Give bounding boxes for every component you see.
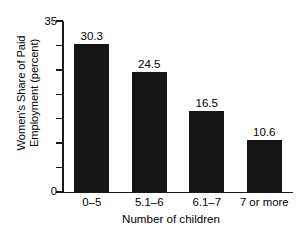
bar[interactable]: [247, 140, 282, 192]
x-axis-title: Number of children: [0, 212, 298, 225]
y-axis-tick-label-0: 0: [29, 185, 57, 197]
y-axis-tick-35: [56, 20, 63, 22]
y-axis-tick-5: [56, 167, 63, 169]
plot-area: 30.324.516.510.6: [63, 21, 293, 192]
y-axis-tick-label-35: 35: [29, 15, 57, 27]
bar-group: 30.3: [74, 21, 109, 192]
x-axis-tick-label: 5.1–6: [135, 196, 164, 208]
bar[interactable]: [189, 111, 224, 192]
y-axis-tick-0: [56, 191, 63, 193]
y-axis-tick-15: [56, 118, 63, 120]
x-axis-tick-label: 7 or more: [240, 196, 289, 208]
bar-value-label: 16.5: [195, 96, 218, 109]
bar[interactable]: [74, 44, 109, 192]
y-axis-tick-30: [56, 45, 63, 47]
bar-value-label: 10.6: [253, 125, 276, 138]
bar-group: 24.5: [132, 21, 167, 192]
bar-value-label: 30.3: [80, 29, 103, 42]
x-axis-tick-label: 0–5: [82, 196, 101, 208]
y-axis-title-line-1: Women's Share of Paid: [15, 36, 28, 151]
bar-chart-figure: Women's Share of Paid Employment (percen…: [0, 0, 298, 240]
y-axis-tick-20: [56, 94, 63, 96]
y-axis-tick-25: [56, 69, 63, 71]
bar-group: 10.6: [247, 21, 282, 192]
bar-group: 16.5: [189, 21, 224, 192]
y-axis-tick-10: [56, 142, 63, 144]
bar-value-label: 24.5: [138, 57, 161, 70]
bar[interactable]: [132, 72, 167, 192]
y-axis-title: Women's Share of Paid Employment (percen…: [8, 8, 48, 178]
y-axis-title-line-2: Employment (percent): [28, 39, 41, 147]
x-axis-tick-label: 6.1–7: [192, 196, 221, 208]
